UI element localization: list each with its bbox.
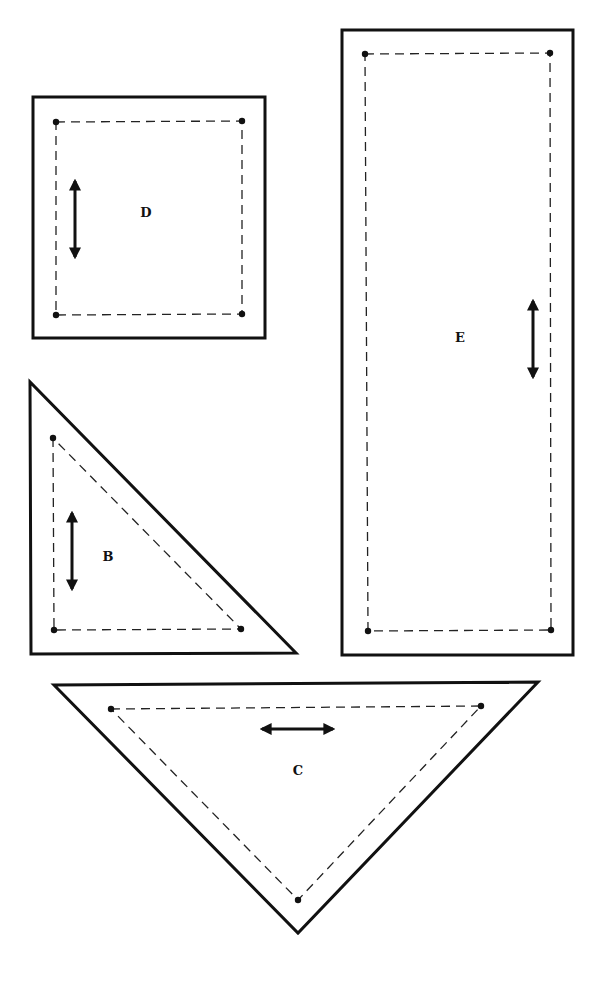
piece-b-seam-line bbox=[53, 438, 241, 630]
piece-c-corner-dots bbox=[108, 703, 484, 903]
piece-b-cut-line bbox=[30, 382, 296, 654]
piece-c: C bbox=[54, 682, 538, 933]
piece-c-seam-line bbox=[111, 706, 481, 900]
piece-c-label: C bbox=[293, 763, 303, 778]
piece-b: B bbox=[30, 382, 296, 654]
piece-b-label: B bbox=[103, 549, 114, 564]
piece-d-label: D bbox=[140, 205, 151, 220]
piece-e-label: E bbox=[455, 330, 465, 345]
piece-e: E bbox=[342, 30, 573, 655]
piece-d: D bbox=[33, 97, 265, 338]
piece-c-cut-line bbox=[54, 682, 538, 933]
pattern-diagram: D E B C bbox=[0, 0, 602, 983]
